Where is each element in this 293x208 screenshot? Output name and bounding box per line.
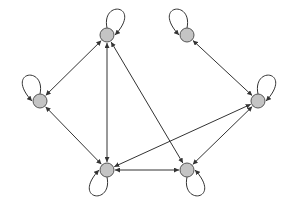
node-A: [100, 28, 114, 42]
node-C: [100, 163, 114, 177]
node-E: [251, 94, 265, 108]
edge-D-E: [193, 107, 253, 165]
edge-A-D: [111, 42, 183, 163]
self-loops-layer: [22, 9, 275, 196]
edges-layer: [46, 40, 253, 170]
edge-A-B: [46, 41, 102, 96]
edge-C-E: [114, 104, 250, 166]
graph-canvas: [0, 0, 293, 208]
node-F: [180, 28, 194, 42]
node-D: [180, 163, 194, 177]
edge-B-C: [46, 107, 102, 165]
edge-F-E: [193, 40, 252, 95]
nodes-layer: [33, 28, 265, 177]
node-B: [33, 94, 47, 108]
